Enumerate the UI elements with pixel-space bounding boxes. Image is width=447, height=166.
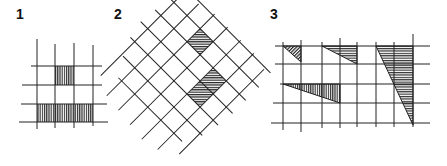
panel-3-grid: [271, 34, 430, 132]
panel-1-shaded-cell: [55, 66, 74, 85]
panel-2-grid: [82, 0, 273, 166]
diagram-canvas: [0, 0, 447, 166]
panel-2-shaded-diamond: [187, 29, 213, 55]
panel-1-grid: [19, 39, 108, 129]
panel-1-shaded-strip: [37, 104, 93, 122]
